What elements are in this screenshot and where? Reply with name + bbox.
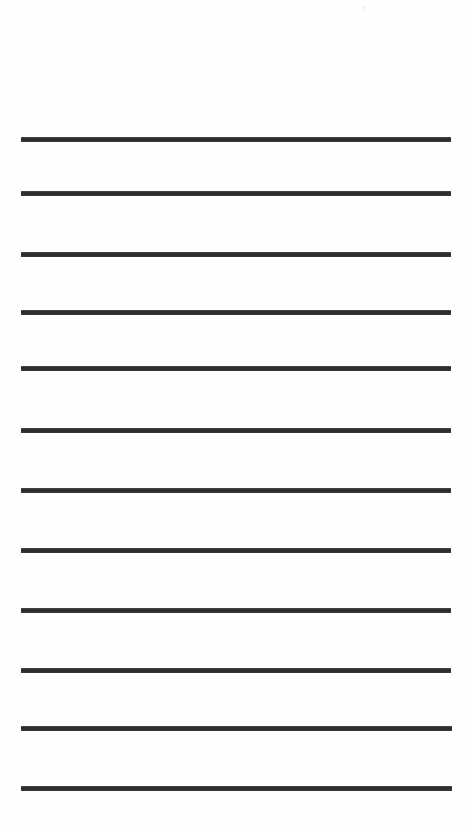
rule-line [21,668,451,673]
rule-line [21,366,451,371]
rule-line [21,488,451,493]
rule-line [21,137,451,142]
rule-line [21,548,451,553]
rule-line [21,726,452,731]
rule-line [21,191,451,196]
top-right-speck [362,6,365,9]
rule-line [21,310,451,315]
ruled-lines-group [0,0,469,835]
lined-paper-page [0,0,469,835]
rule-line [21,608,451,613]
rule-line [21,786,452,791]
rule-line [21,252,451,257]
rule-line [21,428,451,433]
